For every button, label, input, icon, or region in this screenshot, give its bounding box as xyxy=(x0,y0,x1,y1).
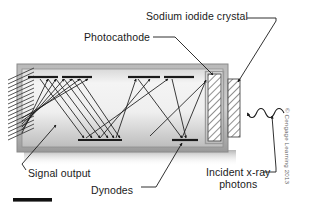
label-signal-output: Signal output xyxy=(28,167,91,179)
label-photocathode: Photocathode xyxy=(84,31,150,43)
label-dynodes: Dynodes xyxy=(91,184,133,196)
label-incident-xray-line1: Incident x-ray xyxy=(206,166,270,178)
sodium-iodide-crystal xyxy=(228,79,240,137)
label-incident-xray-photons: Incident x-ray photons xyxy=(206,166,270,190)
incident-xray-wave xyxy=(248,109,285,118)
label-incident-xray-line2: photons xyxy=(206,178,270,190)
scale-bar xyxy=(13,198,52,202)
label-sodium-iodide-crystal: Sodium iodide crystal xyxy=(146,10,248,22)
copyright-notice: © Cengage Learning 2013 xyxy=(284,108,291,192)
photocathode-plate xyxy=(206,72,224,144)
